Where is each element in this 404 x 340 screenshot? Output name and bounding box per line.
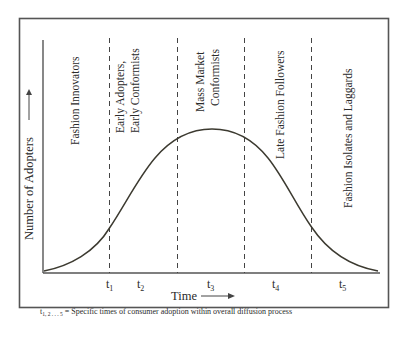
arrow-up-icon [26,89,32,95]
tick-t5: t5 [339,277,346,293]
segment-label-4: Late Fashion Followers [274,50,286,159]
x-axis-label: Time [171,289,197,303]
y-axis-label: Number of Adopters [22,137,36,240]
tick-t4: t4 [272,277,279,293]
footnote: t1, 2 . . . 5 = Specific times of consum… [40,307,292,317]
y-axis-label-group: Number of Adopters [22,89,36,240]
segment-label-3-line-1: Mass Market [194,51,206,112]
diffusion-diagram: Number of Adopters Fashion Innovators Ea… [0,0,404,340]
segment-label-1: Fashion Innovators [69,56,81,145]
tick-t3: t3 [207,277,214,293]
tick-t1: t1 [106,277,113,293]
arrow-right-icon [228,293,235,299]
segment-label-3-line-2: Conformists [209,49,221,106]
diffusion-curve [44,129,378,271]
segment-label-2-line-1: Early Adopters, [114,61,127,133]
tick-t2: t2 [137,277,144,293]
segment-label-2-line-2: Early Conformists [129,48,142,133]
segment-label-5: Fashion Isolates and Laggards [342,68,355,208]
